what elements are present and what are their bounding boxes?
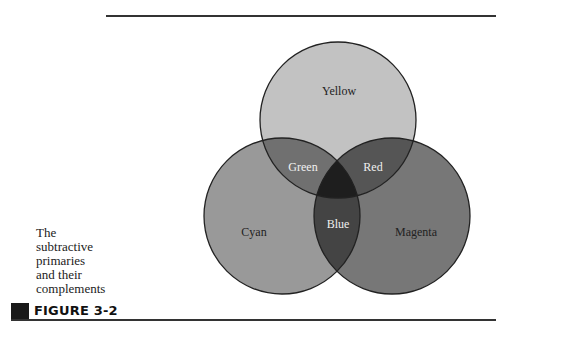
caption-line: primaries [36, 254, 126, 268]
magenta-label: Magenta [395, 225, 438, 239]
figure-caption: The subtractive primaries and their comp… [36, 226, 126, 296]
figure-marker-square [11, 303, 29, 320]
caption-line: complements [36, 282, 126, 296]
blue-label: Blue [327, 217, 350, 231]
bottom-rule [11, 319, 496, 321]
caption-line: The [36, 226, 126, 240]
yellow-label: Yellow [322, 84, 356, 98]
caption-line: and their [36, 268, 126, 282]
red-label: Red [363, 160, 382, 174]
figure-label: FIGURE 3-2 [34, 303, 118, 318]
cyan-label: Cyan [241, 225, 266, 239]
green-label: Green [288, 160, 317, 174]
caption-line: subtractive [36, 240, 126, 254]
